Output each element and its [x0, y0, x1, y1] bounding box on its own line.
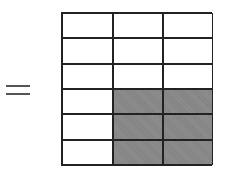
fraction-grid [61, 12, 212, 166]
grid-cell [62, 140, 113, 165]
grid-cell-shaded [163, 114, 213, 139]
grid-cell-shaded [163, 89, 213, 114]
equals-bar-bottom [6, 93, 30, 95]
grid-cell [62, 38, 113, 63]
grid-cell [113, 64, 163, 89]
grid-cell-shaded [113, 140, 163, 165]
equals-bar-top [6, 85, 30, 87]
grid-cell-shaded [113, 89, 163, 114]
grid-cell [62, 13, 113, 38]
grid-cell [62, 64, 113, 89]
grid-cell-shaded [113, 114, 163, 139]
grid-cell-shaded [163, 140, 213, 165]
grid-cell [163, 13, 213, 38]
grid-cell [113, 13, 163, 38]
grid-cell [62, 114, 113, 139]
grid-cell [62, 89, 113, 114]
grid-cell [163, 38, 213, 63]
grid-cell [113, 38, 163, 63]
grid-cell [163, 64, 213, 89]
